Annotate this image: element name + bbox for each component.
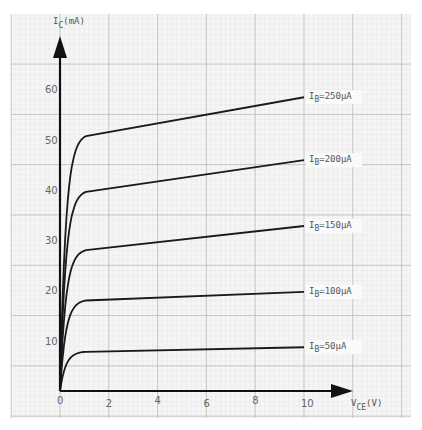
y-tick-label: 10 [45,336,58,347]
y-tick-label: 30 [45,235,58,246]
y-tick-label: 60 [45,84,58,95]
x-tick-label: 4 [155,395,161,406]
y-tick-label: 50 [45,135,58,146]
x-tick-label: 2 [106,398,112,409]
transistor-characteristic-chart: 0246810 102030405060 IC(mA) VCE(V) IB=50… [0,0,422,430]
x-tick-label: 10 [301,398,314,409]
y-tick-label: 40 [45,185,58,196]
x-tick-label: 6 [203,398,209,409]
y-tick-label: 20 [45,285,58,296]
x-tick-label: 8 [252,395,258,406]
x-tick-label: 0 [57,395,63,406]
